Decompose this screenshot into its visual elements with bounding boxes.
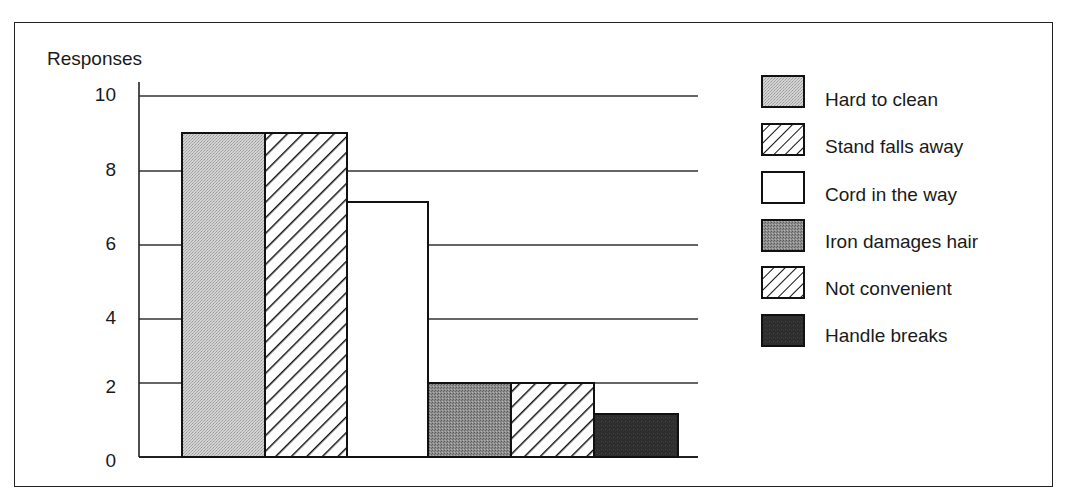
- legend-swatch-hard-to-clean: [762, 76, 804, 107]
- legend-label-cord-in-the-way: Cord in the way: [825, 184, 957, 206]
- bar-stand-falls-away: [265, 133, 347, 457]
- legend-label-not-convenient: Not convenient: [825, 278, 952, 300]
- bar-not-convenient: [511, 383, 594, 457]
- legend-swatch-stand-falls-away: [762, 124, 804, 155]
- bar-hard-to-clean: [182, 133, 265, 457]
- bar-iron-damages-hair: [428, 383, 511, 457]
- legend-swatch-iron-damages-hair: [762, 220, 804, 251]
- legend-swatch-cord-in-the-way: [762, 172, 804, 203]
- legend-label-stand-falls-away: Stand falls away: [825, 136, 963, 158]
- legend-swatch-handle-breaks: [762, 315, 804, 346]
- legend-label-handle-breaks: Handle breaks: [825, 325, 948, 347]
- bar-handle-breaks: [594, 414, 678, 457]
- legend-label-iron-damages-hair: Iron damages hair: [825, 231, 978, 253]
- legend-label-hard-to-clean: Hard to clean: [825, 89, 938, 111]
- bar-cord-in-the-way: [347, 202, 428, 457]
- legend-swatch-not-convenient: [762, 267, 804, 298]
